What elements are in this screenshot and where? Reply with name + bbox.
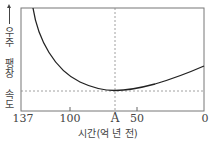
y-axis-label: 우주 팽창 속도 <box>2 4 16 112</box>
y-axis-label-text: 우주 팽창 속도 <box>4 27 15 109</box>
y-axis-arrow-icon <box>9 8 10 24</box>
x-axis-label: 시간(억 년 전) <box>78 127 137 140</box>
expansion-curve <box>33 8 204 91</box>
plot-frame <box>21 8 204 111</box>
x-tick-label-137: 137 <box>13 112 34 125</box>
x-tick-label-100: 100 <box>60 112 81 125</box>
x-tick-label-a: A <box>111 112 120 125</box>
x-tick-label-50: 50 <box>130 112 144 125</box>
x-tick-label-0: 0 <box>202 112 209 125</box>
